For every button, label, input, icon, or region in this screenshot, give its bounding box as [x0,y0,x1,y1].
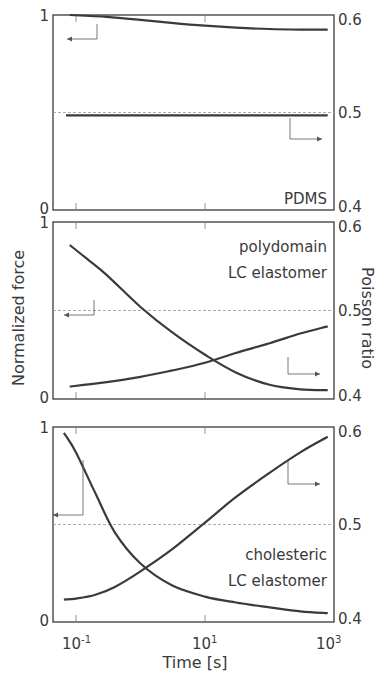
right-tick-0.4: 0.4 [338,198,362,216]
right-tick-0.5: 0.5 [338,516,362,534]
arrow-right-icon [317,137,322,142]
panel-1: 100.60.50.4polydomainLC elastomer [39,214,361,407]
force-arrow-left [53,460,83,515]
panel-0: 100.60.50.4PDMS [39,7,361,218]
arrow-left-icon [67,37,72,42]
x-tick-label-2: 103 [316,634,341,653]
right-tick-0.5: 0.5 [338,104,362,122]
right-tick-0.6: 0.6 [338,423,362,441]
x-tick-labels: 10-1 101 103 [62,634,341,653]
panel-label-line: PDMS [284,190,327,208]
left-tick-1: 1 [39,7,49,25]
panel-2: 100.60.50.4cholestericLC elastomer [39,419,361,630]
poisson-arrow-right [288,460,320,484]
right-tick-0.4: 0.4 [338,610,362,628]
x-axis-title: Time [s] [161,653,227,672]
arrow-left-icon [53,513,58,518]
chart: 100.60.50.4PDMS100.60.50.4polydomainLC e… [0,0,391,679]
left-tick-1: 1 [39,419,49,437]
left-tick-0: 0 [39,612,49,630]
panel-label-line: LC elastomer [228,264,328,282]
panel-label-line: LC elastomer [228,572,328,590]
force-curve [70,15,328,30]
arrow-right-icon [315,482,320,487]
right-tick-0.6: 0.6 [338,11,362,29]
arrow-right-icon [315,372,320,377]
y-axis-title-left: Normalized force [9,250,28,386]
right-tick-0.4: 0.4 [338,387,362,405]
poisson-curve [70,326,328,386]
right-tick-0.6: 0.6 [338,218,362,236]
y-axis-title-right: Poisson ratio [358,267,377,369]
x-tick-label-0: 10-1 [62,634,91,653]
panel-label-line: cholesteric [245,546,327,564]
poisson-arrow-right [290,118,322,139]
panel-label-line: polydomain [239,238,327,256]
x-tick-label-1: 101 [192,634,217,653]
poisson-arrow-right [288,357,320,374]
chart-panels: 100.60.50.4PDMS100.60.50.4polydomainLC e… [39,7,361,630]
left-tick-1: 1 [39,214,49,232]
arrow-left-icon [64,313,69,318]
left-tick-0: 0 [39,389,49,407]
